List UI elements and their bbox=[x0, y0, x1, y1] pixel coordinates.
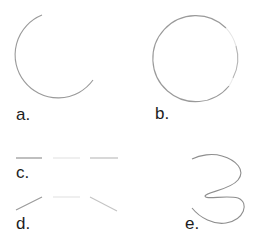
shape-a-arc bbox=[15, 15, 93, 98]
label-c: c. bbox=[16, 164, 29, 181]
shape-e-squiggle bbox=[192, 155, 244, 224]
label-b: b. bbox=[155, 105, 169, 122]
label-d: d. bbox=[16, 215, 30, 232]
figure-canvas bbox=[0, 0, 256, 238]
label-a: a. bbox=[16, 106, 30, 123]
label-e: e. bbox=[185, 215, 199, 232]
shape-b-circle bbox=[153, 16, 238, 102]
shape-d-segments bbox=[16, 197, 117, 211]
